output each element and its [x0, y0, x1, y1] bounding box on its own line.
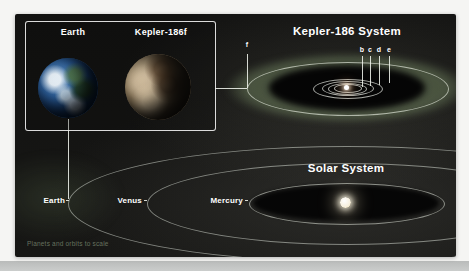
- infographic-panel: Kepler-186 System f b c d e Solar System…: [15, 14, 456, 257]
- leader-line-c: [370, 56, 371, 86]
- leader-line-f: [247, 54, 248, 88]
- solar-system-title: Solar System: [266, 162, 426, 174]
- kepler-planet-e-label: e: [385, 46, 393, 53]
- venus-orbit-label: Venus: [102, 196, 142, 205]
- comparison-kepler-186f-label: Kepler-186f: [121, 27, 201, 37]
- kepler-system-title: Kepler-186 System: [247, 25, 447, 37]
- venus-label-tick: [144, 200, 147, 201]
- earth-photo: [38, 58, 98, 118]
- mercury-orbit-label: Mercury: [193, 196, 243, 205]
- scale-caption: Planets and orbits to scale: [27, 240, 109, 247]
- earth-orbit-label: Earth: [25, 196, 65, 205]
- sun: [340, 197, 351, 208]
- bottom-gray-band: [0, 261, 469, 271]
- leader-line-e: [389, 56, 390, 83]
- kepler-planet-f-label: f: [243, 41, 251, 48]
- comparison-earth-label: Earth: [48, 27, 98, 37]
- connector-box-to-f-orbit: [215, 88, 247, 89]
- connector-earth-photo-to-orbit: [68, 119, 69, 199]
- mercury-label-tick: [245, 200, 248, 201]
- kepler-planet-b-label: b: [358, 46, 366, 53]
- leader-line-d: [379, 56, 380, 85]
- earth-label-tick: [66, 200, 69, 201]
- kepler-186f-photo: [125, 54, 191, 120]
- kepler-planet-d-label: d: [375, 46, 383, 53]
- kepler-186-star: [344, 85, 349, 90]
- leader-line-b: [362, 56, 363, 87]
- kepler-planet-c-label: c: [366, 46, 374, 53]
